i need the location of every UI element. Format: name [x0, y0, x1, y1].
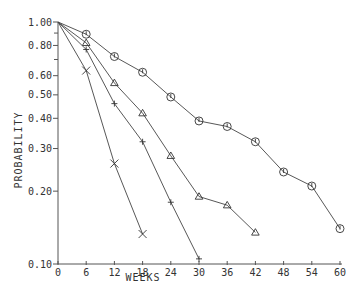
y-axis-label: PROBABILITY	[13, 111, 24, 188]
x-marker-icon	[139, 230, 147, 238]
plus-marker-icon	[168, 199, 174, 205]
plus-marker-icon	[196, 256, 202, 262]
x-tick-label: 42	[249, 267, 261, 278]
x-tick-label: 0	[55, 267, 61, 278]
data-series	[58, 22, 344, 262]
y-tick-label: 0.10	[28, 259, 52, 270]
x-marker-icon	[110, 160, 118, 168]
survival-chart: 1.000.800.600.500.400.300.200.10 0612182…	[0, 0, 357, 303]
axes	[58, 22, 342, 264]
y-tick-label: 0.30	[28, 143, 52, 154]
y-tick-label: 0.50	[28, 89, 52, 100]
x-axis-label: WEEKS	[125, 272, 160, 283]
x-tick-label: 30	[193, 267, 205, 278]
x-tick-label: 48	[278, 267, 290, 278]
series-cross	[58, 22, 147, 238]
y-tick-label: 0.80	[28, 40, 52, 51]
x-tick-label: 24	[165, 267, 177, 278]
y-tick-label: 1.00	[28, 17, 52, 28]
y-tick-label: 0.20	[28, 186, 52, 197]
series-line	[58, 22, 255, 232]
x-tick-label: 60	[334, 267, 346, 278]
x-marker-icon	[82, 67, 90, 75]
series-line	[58, 22, 143, 234]
triangle-marker-icon	[82, 39, 90, 45]
x-tick-label: 12	[108, 267, 120, 278]
x-tick-label: 6	[83, 267, 89, 278]
y-tick-label: 0.40	[28, 113, 52, 124]
y-axis-ticks: 1.000.800.600.500.400.300.200.10	[28, 17, 58, 270]
series-circle	[58, 22, 344, 233]
x-tick-label: 36	[221, 267, 233, 278]
series-plus	[58, 22, 202, 262]
y-tick-label: 0.60	[28, 70, 52, 81]
x-tick-label: 54	[306, 267, 318, 278]
